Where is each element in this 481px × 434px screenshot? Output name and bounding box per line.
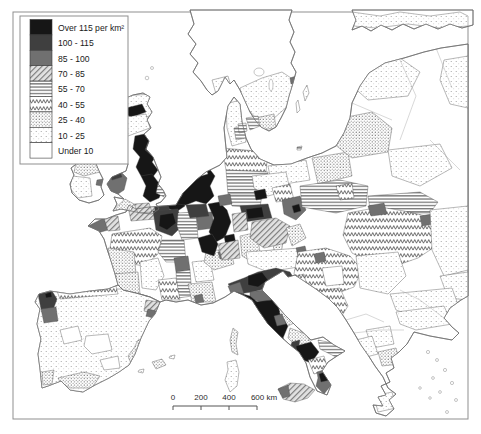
island-menorca xyxy=(169,355,175,359)
island-orkney xyxy=(145,76,149,80)
legend-label-over-115: Over 115 per km² xyxy=(58,23,124,33)
island-aegean xyxy=(443,368,446,371)
region xyxy=(246,207,264,219)
island-gotland xyxy=(303,85,309,101)
scale-tick-label: 400 xyxy=(222,393,236,402)
regions-iberia xyxy=(35,286,165,394)
island-aegean xyxy=(455,399,458,402)
region xyxy=(158,278,180,300)
island-corsica xyxy=(230,328,238,355)
region xyxy=(218,194,232,206)
legend-label-40-55: 40 - 55 xyxy=(58,100,85,110)
legend-label-55-70: 55 - 70 xyxy=(58,84,85,94)
island-mallorca xyxy=(152,359,166,369)
legend-label-70-85: 70 - 85 xyxy=(58,69,85,79)
legend-swatch-over-115 xyxy=(30,20,52,35)
legend-label-100-115: 100 - 115 xyxy=(58,38,94,48)
scale-tick-label: 600 km xyxy=(251,393,278,402)
island-aegean xyxy=(426,350,429,353)
scale-tick-label: 200 xyxy=(194,393,208,402)
region xyxy=(174,256,190,272)
region xyxy=(172,167,215,205)
legend-label-85-100: 85 - 100 xyxy=(58,54,90,64)
lake-vattern xyxy=(269,79,273,91)
island-shetland xyxy=(151,67,154,70)
legend: Over 115 per km²100 - 11585 - 10070 - 85… xyxy=(20,16,128,164)
legend-swatch-40-55 xyxy=(30,97,52,112)
island-bornholm xyxy=(297,146,302,150)
region xyxy=(186,204,209,218)
scale-bar-line xyxy=(173,406,257,410)
region xyxy=(222,148,268,172)
island-aegean xyxy=(432,377,435,380)
island-oland xyxy=(296,100,300,113)
region xyxy=(322,266,344,286)
legend-swatch-25-40 xyxy=(30,112,52,127)
island-sardinia xyxy=(225,360,239,392)
lake-vanern xyxy=(254,68,264,76)
region xyxy=(300,180,368,213)
scale-tick-label: 0 xyxy=(171,393,176,402)
legend-label-10-25: 10 - 25 xyxy=(58,131,85,141)
region xyxy=(306,288,348,322)
region xyxy=(232,212,248,232)
island-aegean xyxy=(446,411,449,414)
region xyxy=(41,307,58,323)
island-aegean xyxy=(429,397,432,400)
region xyxy=(108,248,136,274)
island-sicily-west xyxy=(278,385,290,398)
island-aegean xyxy=(450,381,453,384)
island-aegean xyxy=(439,391,442,394)
legend-swatch-55-70 xyxy=(30,81,52,96)
island-aegean xyxy=(419,387,422,390)
legend-swatch-85-100 xyxy=(30,50,52,65)
legend-label-under-10: Under 10 xyxy=(58,146,94,156)
legend-swatch-70-85 xyxy=(30,66,52,81)
legend-swatch-10-25 xyxy=(30,127,52,142)
legend-label-25-40: 25 - 40 xyxy=(58,115,85,125)
region xyxy=(394,366,406,378)
island-ibiza xyxy=(138,369,144,373)
scale-bar: 0200400600 km xyxy=(171,393,278,410)
region xyxy=(42,370,54,385)
legend-swatch-under-10 xyxy=(30,143,52,158)
region xyxy=(314,252,326,263)
region xyxy=(254,189,267,200)
island-aegean xyxy=(436,359,439,362)
map-page: Over 115 per km²100 - 11585 - 10070 - 85… xyxy=(0,0,481,434)
europe-population-density-map: Over 115 per km²100 - 11585 - 10070 - 85… xyxy=(0,0,481,434)
legend-swatch-100-115 xyxy=(30,35,52,50)
